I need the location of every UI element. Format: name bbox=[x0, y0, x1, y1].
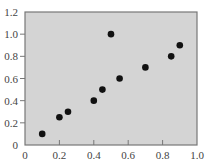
data-point bbox=[56, 114, 63, 121]
x-tick-label: 0.2 bbox=[53, 149, 67, 161]
scatter-chart: 00.20.40.60.81.0 00.20.40.60.81.01.2 bbox=[0, 0, 206, 162]
data-point bbox=[177, 42, 184, 49]
y-tick-label: 0.6 bbox=[4, 73, 18, 85]
y-tick-label: 1.2 bbox=[4, 6, 18, 18]
y-tick-label: 0.2 bbox=[4, 117, 18, 129]
y-tick-label: 0 bbox=[13, 139, 19, 151]
data-point bbox=[91, 97, 98, 104]
data-point bbox=[99, 86, 106, 93]
y-tick-label: 1.0 bbox=[4, 28, 18, 40]
y-tick-label: 0.4 bbox=[4, 95, 18, 107]
y-tick-label: 0.8 bbox=[4, 50, 18, 62]
data-point bbox=[116, 75, 123, 82]
data-point bbox=[65, 108, 72, 115]
data-point bbox=[108, 31, 115, 38]
x-tick-label: 0 bbox=[22, 149, 28, 161]
data-point bbox=[142, 64, 149, 71]
x-tick-label: 1.0 bbox=[190, 149, 204, 161]
data-point bbox=[168, 53, 175, 60]
x-tick-label: 0.6 bbox=[121, 149, 135, 161]
data-point bbox=[39, 131, 46, 138]
x-tick-label: 0.8 bbox=[156, 149, 170, 161]
x-tick-label: 0.4 bbox=[87, 149, 101, 161]
y-axis: 00.20.40.60.81.01.2 bbox=[4, 6, 25, 151]
